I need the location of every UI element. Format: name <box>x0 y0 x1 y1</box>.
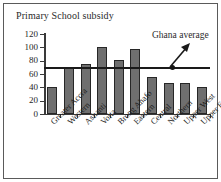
bar <box>47 87 57 114</box>
chart-figure: Primary School subsidy 020406080100120 G… <box>0 0 221 182</box>
bar <box>180 83 190 114</box>
chart-title: Primary School subsidy <box>16 10 114 21</box>
y-tick-label: 20 <box>29 96 38 105</box>
y-tick-label: 100 <box>25 43 39 52</box>
bar <box>197 87 207 114</box>
bar <box>147 77 157 114</box>
x-tick-mark <box>60 114 61 118</box>
y-tick-label: 0 <box>34 110 39 119</box>
bar-series <box>44 34 210 114</box>
bar <box>97 47 107 114</box>
x-tick-mark <box>94 114 95 118</box>
y-tick-label: 80 <box>29 56 38 65</box>
y-tick-label: 60 <box>29 70 38 79</box>
x-tick-mark <box>160 114 161 118</box>
x-tick-mark <box>77 114 78 118</box>
x-tick-mark <box>127 114 128 118</box>
y-tick-mark <box>40 114 45 115</box>
x-tick-mark <box>143 114 144 118</box>
x-tick-mark <box>110 114 111 118</box>
x-tick-mark <box>210 114 211 118</box>
bar <box>64 68 74 114</box>
bar <box>81 64 91 114</box>
ghana-average-label: Ghana average <box>152 30 209 40</box>
y-tick-label: 120 <box>25 30 39 39</box>
x-tick-mark <box>177 114 178 118</box>
y-tick-label: 40 <box>29 83 38 92</box>
x-tick-mark <box>193 114 194 118</box>
bar <box>164 83 174 114</box>
bar <box>130 49 140 114</box>
ghana-average-line <box>44 67 210 69</box>
